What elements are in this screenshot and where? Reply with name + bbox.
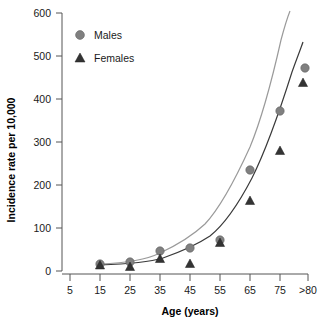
y-tick-label-200: 200 xyxy=(33,179,51,191)
data-point-females-75 xyxy=(275,146,284,155)
legend-marker-females-icon xyxy=(75,53,85,62)
x-tick-label-5: 5 xyxy=(67,284,73,296)
legend-label-males: Males xyxy=(94,29,122,41)
data-point-males-80 xyxy=(301,64,309,72)
x-tick-label-65: 65 xyxy=(244,284,256,296)
data-point-females-45 xyxy=(185,259,194,268)
x-axis xyxy=(62,274,308,281)
chart-legend: Males Females xyxy=(75,29,134,64)
y-axis-title: Incidence rate per 10,000 xyxy=(5,97,17,222)
y-tick-label-600: 600 xyxy=(33,7,51,19)
x-tick-label-45: 45 xyxy=(184,284,196,296)
chart-canvas: 600 500 400 300 200 100 0 Incidence rate… xyxy=(0,0,325,328)
x-tick-label-25: 25 xyxy=(124,284,136,296)
x-tick-label-55: 55 xyxy=(214,284,226,296)
legend-marker-males-icon xyxy=(76,31,85,40)
data-point-males-45 xyxy=(186,244,194,252)
x-axis-title: Age (years) xyxy=(161,305,218,317)
x-tick-label-35: 35 xyxy=(154,284,166,296)
y-tick-label-500: 500 xyxy=(33,50,51,62)
data-point-males-65 xyxy=(246,166,254,174)
x-tick-label-15: 15 xyxy=(94,284,106,296)
y-tick-label-100: 100 xyxy=(33,222,51,234)
legend-label-females: Females xyxy=(94,52,134,64)
data-point-males-75 xyxy=(276,107,284,115)
y-tick-label-0: 0 xyxy=(45,265,51,277)
data-point-females-65 xyxy=(245,196,254,205)
y-tick-label-300: 300 xyxy=(33,136,51,148)
x-tick-label-80: >80 xyxy=(299,284,317,296)
y-tick-label-400: 400 xyxy=(33,93,51,105)
incidence-rate-chart: 600 500 400 300 200 100 0 Incidence rate… xyxy=(0,0,325,328)
males-fit-curve xyxy=(100,11,290,264)
males-data-points xyxy=(96,64,309,268)
x-tick-label-75: 75 xyxy=(274,284,286,296)
y-axis xyxy=(56,13,62,271)
data-point-females-80 xyxy=(298,78,307,87)
